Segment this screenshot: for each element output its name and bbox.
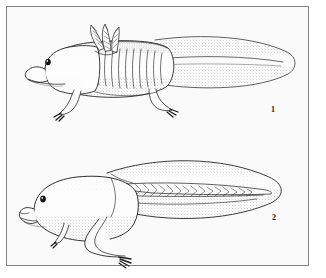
figure-2-number: 2 (272, 214, 276, 222)
illustration-plate: 1 (0, 0, 326, 278)
figure-2-eye (40, 196, 45, 202)
figure-2: 2 (7, 7, 308, 265)
figure-2-drawing (7, 133, 310, 273)
plate-frame: 1 (6, 6, 309, 266)
